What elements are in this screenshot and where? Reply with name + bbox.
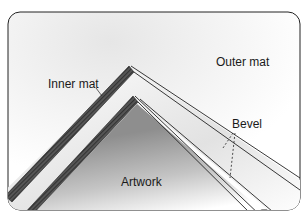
mat-cross-section-diagram: Outer mat Inner mat Bevel Artwork xyxy=(0,0,308,217)
inner-mat-label: Inner mat xyxy=(48,77,99,91)
artwork-label: Artwork xyxy=(121,175,163,189)
outer-mat-label: Outer mat xyxy=(216,55,270,69)
bevel-label: Bevel xyxy=(232,117,262,131)
